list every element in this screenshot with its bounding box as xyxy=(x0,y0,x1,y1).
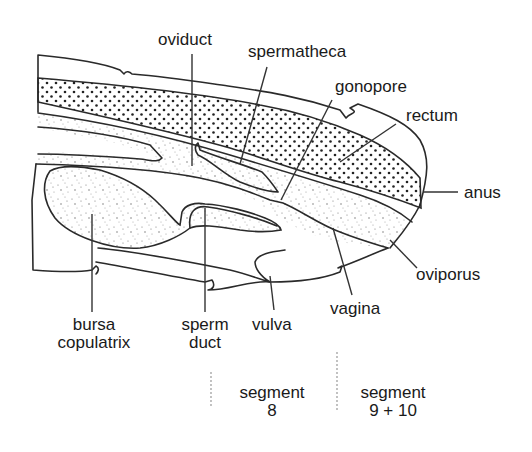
label-oviporus: oviporus xyxy=(416,266,480,284)
label-bursa-copulatrix: bursa copulatrix xyxy=(49,316,139,352)
label-segment-8: segment 8 xyxy=(232,384,312,420)
label-sperm-duct-line1: sperm xyxy=(177,316,233,334)
segment-9-10-line2: 9 + 10 xyxy=(353,402,433,420)
label-spermatheca: spermatheca xyxy=(248,43,346,61)
label-vagina: vagina xyxy=(330,300,380,318)
label-sperm-duct-line2: duct xyxy=(177,334,233,352)
label-bursa-line1: bursa xyxy=(49,316,139,334)
label-anus: anus xyxy=(464,184,501,202)
leader-vulva xyxy=(270,276,274,310)
label-rectum: rectum xyxy=(406,107,458,125)
ventral-duct xyxy=(98,248,285,282)
segment-8-line2: 8 xyxy=(232,402,312,420)
segment-8-line1: segment xyxy=(232,384,312,402)
label-sperm-duct: sperm duct xyxy=(177,316,233,352)
label-bursa-line2: copulatrix xyxy=(49,334,139,352)
label-gonopore: gonopore xyxy=(335,78,407,96)
leader-oviporus xyxy=(390,240,417,268)
label-oviduct: oviduct xyxy=(158,31,212,49)
segment-9-10-line1: segment xyxy=(353,384,433,402)
label-vulva: vulva xyxy=(252,316,292,334)
label-segment-9-10: segment 9 + 10 xyxy=(353,384,433,420)
